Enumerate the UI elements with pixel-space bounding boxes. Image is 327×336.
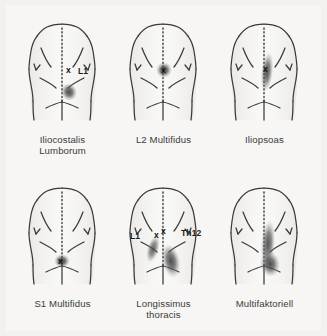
- torso-diagram-iliocostalis-lumborum: x L1: [10, 8, 115, 136]
- caption-line-1: Iliopsoas: [245, 134, 284, 145]
- vertebra-label-l1: L1: [78, 66, 88, 76]
- caption-line-1: Longissimus: [136, 298, 190, 309]
- vertebra-label-l1: L1: [130, 231, 140, 241]
- panel-l2-multifidus: x L2 Multifidus: [111, 8, 216, 171]
- panel-iliocostalis-lumborum: x L1 Iliocostalis Lumborum: [10, 8, 115, 171]
- panel-caption-s1-multifidus: S1 Multifidus: [10, 298, 115, 309]
- torso-diagram-s1-multifidus: x: [10, 172, 115, 300]
- panel-caption-longissimus-thoracis: Longissimus thoracis: [111, 298, 216, 321]
- caption-line-2: Lumborum: [10, 145, 115, 156]
- referred-pain-figure: x L1 Iliocostalis Lumborum: [0, 0, 327, 336]
- vertebra-label-th12: Th12: [181, 228, 201, 238]
- trigger-point-marker: x: [58, 257, 63, 266]
- panel-caption-l2-multifidus: L2 Multifidus: [111, 134, 216, 145]
- panel-longissimus-thoracis: L1 x x Th12 Longissimus thoracis: [111, 172, 216, 335]
- trigger-point-marker-right: x: [161, 227, 166, 236]
- trigger-point-marker: x: [263, 65, 268, 74]
- panel-caption-iliocostalis-lumborum: Iliocostalis Lumborum: [10, 134, 115, 157]
- panel-caption-multifaktoriell: Multifaktoriell: [212, 298, 317, 309]
- torso-diagram-multifaktoriell: [212, 172, 317, 300]
- trigger-point-marker-left: x: [154, 231, 159, 240]
- torso-diagram-longissimus-thoracis: L1 x x Th12: [111, 172, 216, 300]
- trigger-point-marker: x: [66, 66, 71, 75]
- torso-diagram-iliopsoas: x: [212, 8, 317, 136]
- caption-line-1: Iliocostalis: [40, 134, 85, 145]
- caption-line-2: thoracis: [111, 309, 216, 320]
- caption-line-1: S1 Multifidus: [34, 298, 90, 309]
- panel-multifaktoriell: Multifaktoriell: [212, 172, 317, 335]
- panel-iliopsoas: x Iliopsoas: [212, 8, 317, 171]
- trigger-point-marker: x: [161, 66, 166, 75]
- panel-caption-iliopsoas: Iliopsoas: [212, 134, 317, 145]
- panel-s1-multifidus: x S1 Multifidus: [10, 172, 115, 335]
- torso-diagram-l2-multifidus: x: [111, 8, 216, 136]
- caption-line-1: L2 Multifidus: [136, 134, 191, 145]
- caption-line-1: Multifaktoriell: [236, 298, 293, 309]
